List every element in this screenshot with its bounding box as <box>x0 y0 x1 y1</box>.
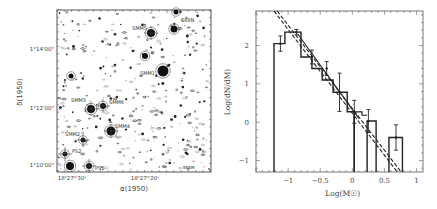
source-blob <box>171 26 178 33</box>
x-tick-label: 0 <box>350 177 354 185</box>
source-label: SMM3 <box>71 97 86 103</box>
source-label: SMM1 <box>140 70 155 76</box>
y-tick-label: 1 <box>245 80 249 88</box>
y-tick-label: 1°12'00" <box>30 105 54 111</box>
source-blob <box>66 162 74 170</box>
x-tick-label: −1 <box>283 177 293 185</box>
beam-label: BEAM <box>183 165 195 170</box>
y-tick-label: 1°10'00" <box>30 162 54 168</box>
y-tick-label: 0 <box>245 119 249 127</box>
source-label: SMM5 <box>132 25 147 31</box>
y-axis-label: δ(1950) <box>16 78 24 106</box>
x-tick-label: 18ʰ27ᵐ20ˢ <box>131 175 160 181</box>
y-tick-label: 2 <box>245 42 249 50</box>
mass-function-panel: −1−0.500.51−1012Log(M☉)Log(dN/dM) <box>220 0 437 209</box>
source-label: S68N <box>181 17 195 23</box>
y-axis-label: Log(dN/dM) <box>223 69 232 116</box>
data-point <box>325 67 327 69</box>
x-tick-label: 1 <box>414 177 418 185</box>
source-blob <box>142 53 148 59</box>
data-point <box>353 111 355 113</box>
source-blob <box>158 66 169 77</box>
data-point <box>279 42 281 44</box>
source-label: SMM2 <box>65 131 80 137</box>
data-point <box>367 120 369 122</box>
mass-function-chart: −1−0.500.51−1012Log(M☉)Log(dN/dM) <box>220 0 437 209</box>
source-blob <box>174 10 179 15</box>
x-tick-label: −0.5 <box>312 177 329 185</box>
source-label: PS2 <box>72 148 81 154</box>
y-tick-label: 1°14'00" <box>30 46 54 52</box>
x-axis-label: Log(M☉) <box>325 189 360 198</box>
source-label: PS1 <box>95 165 104 171</box>
data-point <box>311 56 313 58</box>
source-blob <box>69 74 74 79</box>
x-axis-label: α(1950) <box>120 185 148 193</box>
data-point <box>338 91 340 93</box>
data-point <box>395 136 397 138</box>
x-tick-label: 0.5 <box>379 177 390 185</box>
x-tick-label: 18ʰ27ᵐ30ˢ <box>58 175 87 181</box>
data-point <box>295 31 297 33</box>
y-tick-label: −1 <box>239 157 249 165</box>
source-label: SMM4 <box>115 123 130 129</box>
source-label: SMM6 <box>109 99 124 105</box>
contour-map: SMM5S68NSMM1SMM3SMM6SMM4SMM2PS2PS1BEAM1°… <box>0 0 220 209</box>
sky-map-panel: SMM5S68NSMM1SMM3SMM6SMM4SMM2PS2PS1BEAM1°… <box>0 0 220 209</box>
